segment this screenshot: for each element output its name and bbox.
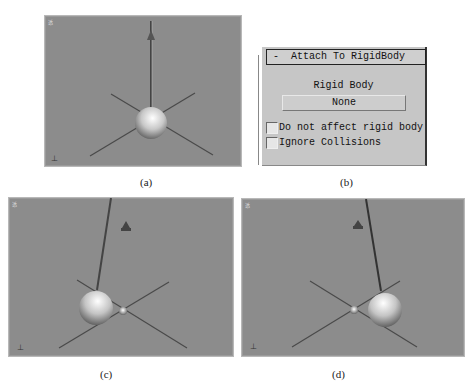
caption-d: (d) — [332, 368, 345, 380]
ground-axis-2 — [59, 282, 169, 348]
divider — [258, 55, 259, 165]
attach-to-rigidbody-rollout: - Attach To RigidBody Rigid Body None Do… — [262, 47, 427, 166]
viewport-c[interactable]: 透 ⊥ — [8, 197, 234, 357]
anchor-arrow — [147, 30, 155, 40]
pendulum-sphere — [135, 107, 167, 139]
pendulum-sphere — [79, 291, 113, 325]
scene-d: ⊥ — [242, 199, 464, 356]
axis-gizmo: ⊥ — [17, 343, 24, 352]
rigid-body-label: Rigid Body — [262, 80, 425, 91]
axis-gizmo: ⊥ — [250, 342, 257, 351]
do-not-affect-checkbox[interactable] — [266, 122, 278, 134]
viewport-a[interactable]: 透 ⊥ — [44, 15, 242, 167]
caption-b: (b) — [340, 176, 353, 188]
caption-c: (c) — [100, 368, 112, 380]
rigid-body-pick-button[interactable]: None — [282, 95, 406, 111]
do-not-affect-label: Do not affect rigid body — [279, 122, 423, 134]
small-ball — [119, 307, 127, 315]
caption-a: (a) — [140, 176, 152, 188]
anchor-icon — [121, 221, 131, 231]
axis-gizmo: ⊥ — [51, 154, 58, 163]
rollout-title: Attach To RigidBody — [291, 50, 405, 64]
small-ball — [350, 306, 358, 314]
ignore-collisions-checkbox[interactable] — [266, 137, 278, 149]
rollout-header[interactable]: - Attach To RigidBody — [266, 49, 426, 65]
scene-a: ⊥ — [45, 16, 241, 166]
viewport-d[interactable]: 透 ⊥ — [241, 198, 465, 357]
rope — [366, 199, 381, 291]
rope — [97, 198, 111, 290]
anchor-icon — [353, 220, 363, 229]
collapse-icon[interactable]: - — [273, 50, 279, 64]
pendulum-sphere — [368, 293, 402, 327]
scene-c: ⊥ — [9, 198, 233, 356]
ignore-collisions-label: Ignore Collisions — [279, 137, 381, 149]
